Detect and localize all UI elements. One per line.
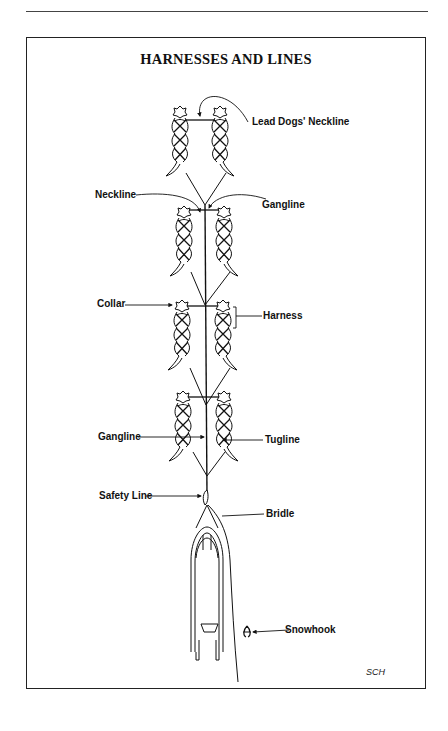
label-gangline-lower: Gangline	[98, 431, 141, 442]
figure-title: HARNESSES AND LINES	[27, 51, 425, 68]
label-neckline: Neckline	[95, 189, 136, 200]
figure-frame: HARNESSES AND LINES	[26, 37, 426, 689]
label-bridle: Bridle	[266, 508, 294, 519]
label-lead-dogs-neckline: Lead Dogs' Neckline	[252, 116, 349, 127]
label-snowhook: Snowhook	[285, 624, 336, 635]
label-tugline: Tugline	[265, 434, 300, 445]
label-safety-line: Safety Line	[99, 490, 152, 501]
label-gangline-top: Gangline	[262, 199, 305, 210]
label-collar: Collar	[97, 298, 125, 309]
label-harness: Harness	[263, 310, 302, 321]
artist-credit: SCH	[366, 667, 385, 677]
